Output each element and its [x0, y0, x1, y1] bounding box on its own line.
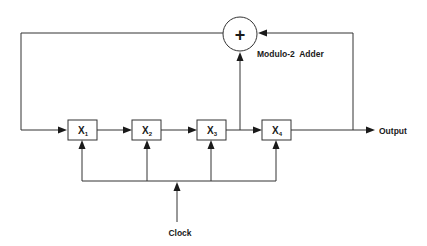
output-arrow-icon — [366, 127, 375, 134]
arrow-into-adder-bottom-icon — [237, 52, 244, 61]
register-x3: X3 — [197, 120, 226, 140]
clock-input-arrow-icon — [174, 182, 181, 191]
feedback-path — [21, 33, 223, 134]
clock-bus — [79, 140, 280, 222]
arrow-into-adder-right-icon — [258, 30, 267, 37]
arrow-into-x3-icon — [188, 127, 197, 134]
arrow-into-x2-icon — [123, 127, 132, 134]
tap-x4-to-adder — [258, 30, 353, 131]
output-label: Output — [379, 126, 407, 136]
register-x4: X4 — [262, 120, 291, 140]
arrow-into-x1-icon — [58, 127, 67, 134]
plus-icon: + — [235, 25, 246, 45]
clock-label: Clock — [168, 228, 191, 238]
modulo-2-adder: + — [223, 17, 257, 51]
clock-arrow-x1-icon — [79, 140, 86, 149]
tap-x3-to-adder — [237, 52, 244, 130]
arrow-into-x4-icon — [253, 127, 262, 134]
clock-arrow-x2-icon — [144, 140, 151, 149]
register-x2: X2 — [132, 120, 161, 140]
lfsr-diagram: X1 X2 X3 X4 + Modulo-2 Adder Outpu — [0, 0, 427, 246]
register-x1: X1 — [68, 120, 97, 140]
adder-label: Modulo-2 Adder — [257, 49, 324, 59]
clock-arrow-x3-icon — [208, 140, 215, 149]
clock-arrow-x4-icon — [273, 140, 280, 149]
